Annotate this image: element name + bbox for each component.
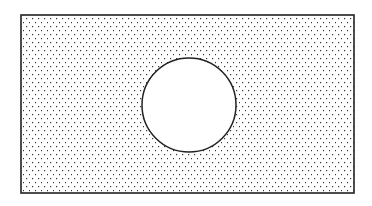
blank-circle	[142, 58, 236, 152]
diagram-canvas	[0, 0, 372, 206]
